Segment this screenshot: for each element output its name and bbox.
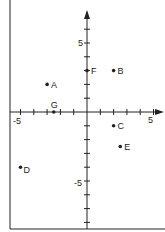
x-tick-label-5: 5 <box>148 115 153 125</box>
point-c: C <box>112 121 125 131</box>
svg-text:E: E <box>124 142 130 152</box>
svg-text:G: G <box>51 100 58 110</box>
point-d: D <box>19 165 31 175</box>
svg-text:B: B <box>118 66 124 76</box>
svg-text:D: D <box>24 165 31 175</box>
svg-text:F: F <box>91 66 97 76</box>
point-a: A <box>45 80 57 90</box>
y-axis-arrow-icon <box>84 10 90 19</box>
coordinate-plane: -5 5 5 -5 ABCDEFG <box>0 0 165 232</box>
svg-text:C: C <box>118 121 125 131</box>
points: ABCDEFG <box>19 66 131 175</box>
x-tick-label-neg5: -5 <box>13 116 21 126</box>
point-e: E <box>118 142 130 152</box>
point-b: B <box>112 66 124 76</box>
svg-text:A: A <box>51 80 57 90</box>
y-tick-label-neg5: -5 <box>74 178 82 188</box>
x-axis-arrow-icon <box>155 109 164 115</box>
plane-svg: -5 5 5 -5 ABCDEFG <box>0 0 165 232</box>
y-tick-label-5: 5 <box>78 38 83 48</box>
